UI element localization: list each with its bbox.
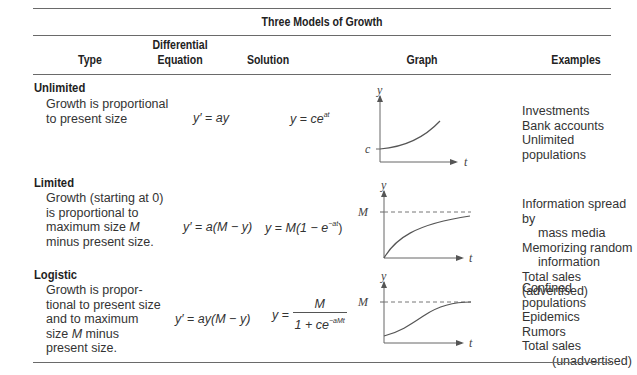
sol-fraction: M 1 + ce−aMt bbox=[293, 297, 347, 333]
sol-base: ce bbox=[311, 112, 324, 126]
row-unlimited-type: Unlimited bbox=[34, 81, 85, 95]
sol-exp: at bbox=[324, 111, 330, 118]
example-item: Information spread by bbox=[522, 197, 637, 226]
eq-rhs-M: M bbox=[217, 220, 227, 234]
header-diff-line2: Equation bbox=[145, 53, 215, 68]
graph-y-label: y bbox=[376, 84, 383, 97]
table-title: Three Models of Growth bbox=[68, 15, 577, 29]
graph-y-label: y bbox=[380, 179, 387, 192]
desc-line: and to maximum bbox=[46, 312, 161, 327]
sol-numerator: M bbox=[293, 297, 347, 313]
sol-den-base: 1 + ce bbox=[295, 318, 329, 332]
desc-text: maximum size bbox=[46, 220, 129, 234]
desc-line: size M minus bbox=[46, 327, 161, 342]
sol-close: ) bbox=[338, 221, 342, 235]
example-item-continued: information bbox=[522, 255, 637, 270]
graph-x-label: t bbox=[469, 251, 473, 264]
limited-growth-graph: y t M bbox=[355, 179, 505, 264]
desc-text: minus bbox=[82, 327, 119, 341]
sol-denominator: 1 + ce−aMt bbox=[293, 313, 347, 333]
graph-x-label: t bbox=[464, 155, 468, 166]
graph-x-label: t bbox=[469, 336, 473, 350]
example-item: Epidemics bbox=[522, 310, 637, 325]
row-limited-equation: y′ = a(M − y) bbox=[183, 220, 252, 234]
header-graph: Graph bbox=[387, 53, 457, 68]
eq-lhs: y′ bbox=[175, 312, 184, 326]
example-item-continued: mass media bbox=[522, 226, 637, 241]
eq-equals: = bbox=[195, 220, 206, 234]
row-logistic-description: Growth is propor- tional to present size… bbox=[46, 283, 161, 356]
top-rule bbox=[33, 8, 611, 9]
sol-equals: = bbox=[300, 112, 311, 126]
desc-line: Growth (starting at 0) bbox=[46, 191, 163, 206]
eq-lhs: y′ bbox=[183, 220, 192, 234]
graph-M-label: M bbox=[357, 205, 369, 219]
eq-equals: = bbox=[187, 312, 198, 326]
desc-line: minus present size. bbox=[46, 235, 163, 250]
logistic-growth-graph: y t M bbox=[355, 270, 505, 350]
row-logistic-examples: Confined populations Epidemics Rumors To… bbox=[522, 281, 637, 368]
eq-rhs: ay bbox=[216, 111, 229, 125]
row-logistic-solution: y = M 1 + ce−aMt bbox=[272, 297, 347, 333]
sol-exp: −at bbox=[328, 220, 338, 227]
sol-lhs: y bbox=[272, 308, 278, 322]
unlimited-growth-graph: y t c bbox=[360, 84, 500, 166]
header-rule bbox=[33, 74, 611, 75]
eq-rhs-suffix: − y) bbox=[227, 220, 252, 234]
sol-den-exp: −aMt bbox=[329, 317, 345, 324]
eq-rhs-prefix: a( bbox=[206, 220, 217, 234]
example-item: Confined populations bbox=[522, 281, 637, 310]
row-limited-solution: y = M(1 − e−at) bbox=[265, 220, 342, 235]
sol-equals: = bbox=[275, 221, 286, 235]
desc-var: M bbox=[129, 220, 139, 234]
example-item-continued: (unadvertised) bbox=[522, 354, 637, 369]
example-item: Memorizing random bbox=[522, 241, 637, 256]
desc-line: present size. bbox=[46, 341, 161, 356]
example-item: Unlimited populations bbox=[522, 133, 637, 162]
header-solution: Solution bbox=[233, 53, 303, 68]
row-limited-description: Growth (starting at 0) is proportional t… bbox=[46, 191, 163, 249]
example-item: Total sales bbox=[522, 339, 637, 354]
row-unlimited-solution: y = ceat bbox=[290, 111, 330, 126]
title-rule bbox=[33, 35, 611, 36]
eq-equals: = bbox=[205, 111, 216, 125]
row-logistic-equation: y′ = ay(M − y) bbox=[175, 312, 250, 326]
graph-M-label: M bbox=[357, 295, 369, 309]
row-logistic-type: Logistic bbox=[34, 268, 77, 282]
desc-line: maximum size M bbox=[46, 220, 163, 235]
bottom-rule bbox=[33, 362, 611, 363]
sol-equals: = bbox=[282, 308, 293, 322]
row-unlimited-equation: y′ = ay bbox=[193, 111, 229, 125]
example-item: Rumors bbox=[522, 325, 637, 340]
desc-line: Growth is propor- bbox=[46, 283, 161, 298]
desc-line: is proportional to bbox=[46, 206, 163, 221]
graph-y-label: y bbox=[380, 270, 387, 283]
desc-line: tional to present size bbox=[46, 298, 161, 313]
desc-var: M bbox=[72, 327, 82, 341]
desc-text: size bbox=[46, 327, 72, 341]
sol-lhs: y bbox=[265, 221, 271, 235]
eq-rhs: ay(M − y) bbox=[198, 312, 250, 326]
row-unlimited-examples: Investments Bank accounts Unlimited popu… bbox=[522, 104, 637, 162]
header-diff-line1: Differential bbox=[145, 38, 215, 53]
header-examples: Examples bbox=[541, 53, 611, 68]
sol-lhs: y bbox=[290, 112, 296, 126]
eq-lhs: y′ bbox=[193, 111, 202, 125]
sol-text: M(1 − e bbox=[286, 221, 329, 235]
example-item: Investments bbox=[522, 104, 637, 119]
example-item: Bank accounts bbox=[522, 119, 637, 134]
row-limited-type: Limited bbox=[34, 176, 74, 190]
row-unlimited-description: Growth is proportional to present size bbox=[46, 97, 168, 126]
header-type: Type bbox=[55, 53, 125, 68]
header-differential-equation: Differential Equation bbox=[145, 38, 215, 68]
graph-c-label: c bbox=[365, 142, 371, 156]
